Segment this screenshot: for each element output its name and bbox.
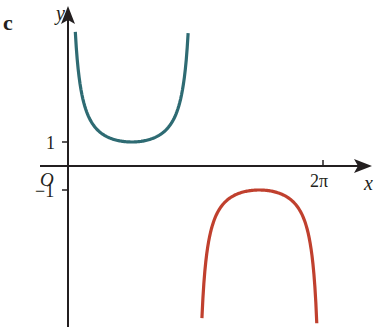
y-axis-label: y bbox=[54, 2, 65, 25]
panel-label: c bbox=[3, 10, 13, 35]
x-tick-label-2pi: 2π bbox=[310, 171, 328, 191]
graph: c y x O 1 −1 2π bbox=[0, 0, 382, 330]
series-cosec-positive bbox=[75, 32, 188, 142]
x-axis-label: x bbox=[363, 172, 373, 194]
y-tick-label-neg1: −1 bbox=[35, 181, 54, 201]
series-cosec-negative bbox=[202, 190, 317, 323]
y-tick-label-1: 1 bbox=[46, 133, 55, 153]
